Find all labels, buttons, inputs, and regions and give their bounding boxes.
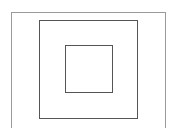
inner-square [65, 45, 113, 93]
